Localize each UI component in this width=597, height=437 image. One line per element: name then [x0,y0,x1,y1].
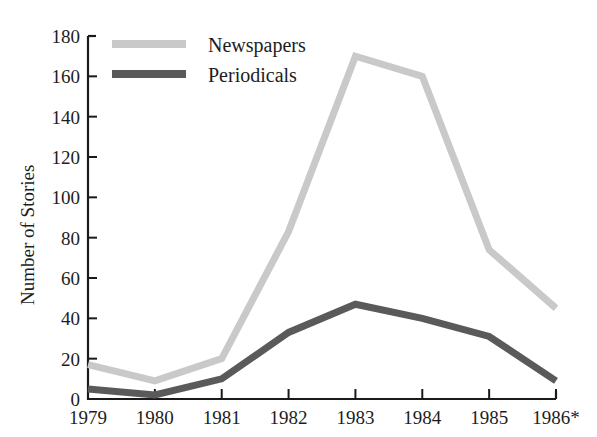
y-tick-label: 20 [61,349,80,370]
x-tick-label: 1986* [532,407,580,428]
line-chart: Number of Stories 0204060801001201401601… [0,0,597,437]
legend-label-newspapers: Newspapers [208,34,306,57]
y-tick-label: 60 [61,268,80,289]
x-tick-marks [155,389,556,399]
y-tick-label: 100 [52,187,81,208]
x-tick-label: 1984 [403,407,442,428]
series-lines [88,56,556,395]
x-tick-label: 1981 [203,407,241,428]
x-tick-labels: 19791980198119821983198419851986* [69,407,580,428]
x-tick-label: 1985 [470,407,508,428]
y-tick-labels: 020406080100120140160180 [52,26,81,410]
y-axis-title-text: Number of Stories [17,165,38,305]
chart-container: Number of Stories 0204060801001201401601… [0,0,597,437]
x-tick-label: 1982 [270,407,308,428]
x-tick-label: 1980 [136,407,174,428]
legend-label-periodicals: Periodicals [208,64,297,86]
y-tick-label: 160 [52,66,81,87]
x-tick-label: 1983 [336,407,374,428]
chart-legend: NewspapersPeriodicals [112,34,306,86]
y-tick-label: 40 [61,308,80,329]
y-tick-label: 140 [52,107,81,128]
y-tick-label: 180 [52,26,81,47]
legend-swatch-newspapers [112,40,186,48]
y-tick-label: 80 [61,228,80,249]
y-tick-label: 120 [52,147,81,168]
x-tick-label: 1979 [69,407,107,428]
legend-swatch-periodicals [112,70,186,78]
axis-lines [88,36,556,399]
y-axis-title: Number of Stories [17,165,38,305]
y-tick-marks [88,76,97,358]
